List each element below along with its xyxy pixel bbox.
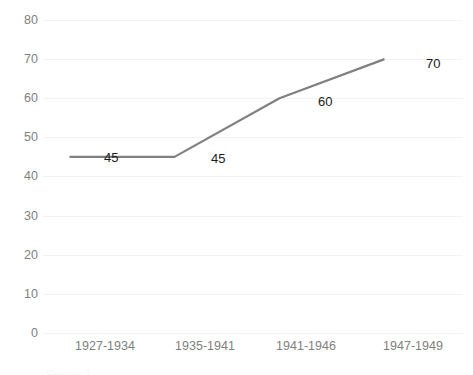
data-label-point-2: 45 — [211, 152, 225, 165]
x-axis: 1927-1934 1935-1941 1941-1946 1947-1949 — [43, 340, 463, 360]
data-label-point-1: 45 — [104, 151, 118, 164]
x-tick-label: 1941-1946 — [276, 340, 336, 354]
x-tick-label: 1927-1934 — [75, 340, 135, 354]
series-line — [0, 0, 473, 375]
data-label-point-4: 70 — [426, 57, 440, 70]
legend-cropped: Series 1 — [46, 369, 166, 375]
x-tick-label: 1947-1949 — [383, 340, 443, 354]
x-tick-label: 1935-1941 — [175, 340, 235, 354]
line-chart: 80 70 60 50 40 30 20 10 0 45 45 60 70 19… — [0, 0, 473, 375]
data-label-point-3: 60 — [318, 95, 332, 108]
series-1-path — [70, 59, 385, 157]
